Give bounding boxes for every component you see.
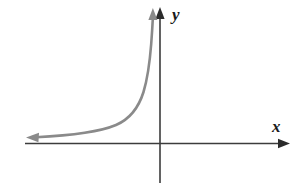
curve-top-arrowhead (148, 8, 157, 20)
curve-path (36, 19, 153, 137)
y-axis-label: y (172, 6, 180, 23)
graph-canvas (0, 0, 296, 183)
coordinate-plane-figure: y x (0, 0, 296, 183)
x-axis-arrowhead (278, 139, 290, 149)
y-axis-arrowhead (155, 7, 164, 19)
curve-left-arrowhead (26, 133, 39, 143)
x-axis-label: x (272, 118, 281, 135)
